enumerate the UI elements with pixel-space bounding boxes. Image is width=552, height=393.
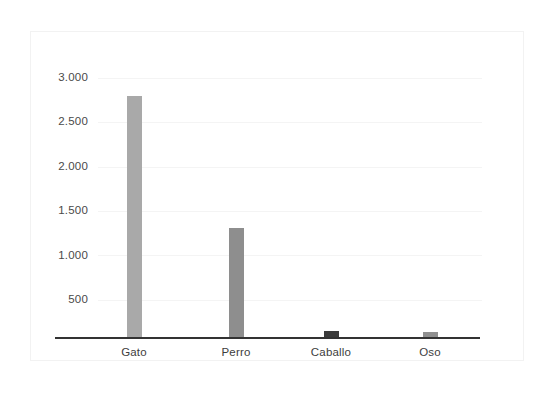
y-tick-label-3000: 3.000 xyxy=(58,72,88,84)
x-axis-line xyxy=(55,337,480,339)
bar-gato[interactable] xyxy=(127,96,142,337)
y-tick-label-1500: 1.500 xyxy=(58,205,88,217)
bar-perro[interactable] xyxy=(229,228,244,337)
x-tick-label-perro: Perro xyxy=(221,345,250,360)
x-tick-label-oso: Oso xyxy=(419,345,441,360)
y-tick-label-2500: 2.500 xyxy=(58,116,88,128)
y-tick-label-1000: 1.000 xyxy=(58,250,88,262)
bar-chart: 3.000 2.500 2.000 1.500 1.000 500 Gato P… xyxy=(0,0,552,393)
y-axis: 3.000 2.500 2.000 1.500 1.000 500 xyxy=(0,0,88,393)
x-tick-label-gato: Gato xyxy=(121,345,147,360)
y-tick-label-500: 500 xyxy=(68,294,88,306)
x-tick-label-caballo: Caballo xyxy=(311,345,351,360)
y-tick-label-2000: 2.000 xyxy=(58,161,88,173)
bars-layer xyxy=(98,78,482,337)
